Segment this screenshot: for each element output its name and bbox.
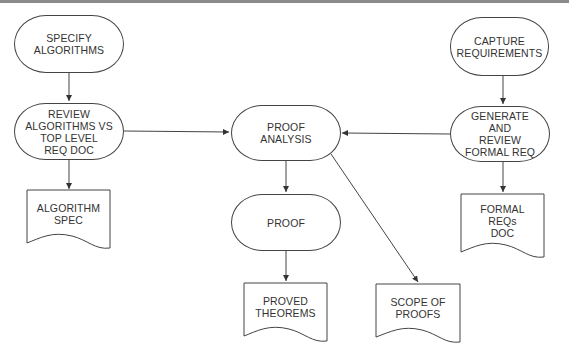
node-label: SCOPE OF PROOFS <box>390 296 445 320</box>
node-label: ALGORITHM SPEC <box>37 202 100 226</box>
node-generate-review-formal-req[interactable]: GENERATE AND REVIEW FORMAL REQ <box>450 106 550 162</box>
node-label: FORMAL REQs DOC <box>480 203 524 239</box>
node-label: SPECIFY ALGORITHMS <box>34 32 104 56</box>
node-scope-of-proofs[interactable]: SCOPE OF PROOFS <box>376 284 460 342</box>
node-proved-theorems[interactable]: PROVED THEOREMS <box>244 283 327 341</box>
node-specify-algorithms[interactable]: SPECIFY ALGORITHMS <box>14 15 124 73</box>
arrow-generate-to-proof-analysis <box>342 133 450 134</box>
node-label: CAPTURE REQUIREMENTS <box>457 35 543 59</box>
node-label: GENERATE AND REVIEW FORMAL REQ <box>465 110 535 158</box>
node-label: PROVED THEOREMS <box>255 295 315 319</box>
flowchart-canvas: SPECIFY ALGORITHMS REVIEW ALGORITHMS VS … <box>0 0 569 354</box>
node-label: PROOF ANALYSIS <box>260 121 311 145</box>
node-label: PROOF <box>267 217 305 229</box>
node-algorithm-spec[interactable]: ALGORITHM SPEC <box>27 190 110 248</box>
arrow-review-to-proof-analysis <box>124 131 229 132</box>
arrow-proof-analysis-to-scope <box>331 154 418 282</box>
node-label: REVIEW ALGORITHMS VS TOP LEVEL REQ DOC <box>25 108 113 156</box>
node-formal-reqs-doc[interactable]: FORMAL REQs DOC <box>461 194 544 257</box>
node-proof[interactable]: PROOF <box>231 194 341 251</box>
node-proof-analysis[interactable]: PROOF ANALYSIS <box>231 105 341 161</box>
node-review-algorithms[interactable]: REVIEW ALGORITHMS VS TOP LEVEL REQ DOC <box>14 103 124 160</box>
node-capture-requirements[interactable]: CAPTURE REQUIREMENTS <box>450 17 549 76</box>
